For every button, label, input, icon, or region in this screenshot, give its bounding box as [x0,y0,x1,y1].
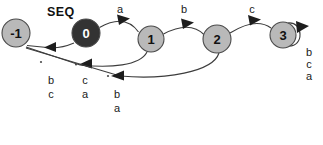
arrowhead-0-neg1 [44,42,56,52]
edge-dot-2-neg1 [107,75,109,77]
edge-label-0-1: a [114,3,126,15]
node-1-label: 1 [147,32,154,47]
back-edge-label-1-neg1-1: a [79,88,91,100]
graph-canvas: -1 0 1 2 3 [0,0,323,145]
edge-dot-1-neg1 [75,63,77,65]
back-edge-label-0-neg1-1: c [45,88,57,100]
self-loop-label-3-0: b [303,46,315,58]
back-edge-label-1-neg1-0: c [79,74,91,86]
node-1[interactable]: 1 [138,26,164,52]
back-edge-1-to-neg1 [26,47,147,69]
forward-edge-0-to-1 [100,15,139,33]
state-machine-diagram: -1 0 1 2 3 SEQ a b c b c a b c c a b a [0,0,323,145]
node-neg1[interactable]: -1 [2,19,30,47]
edge-label-2-3: c [246,3,258,15]
back-edge-label-2-neg1-1: a [111,102,123,114]
node-3-label: 3 [279,28,286,43]
edge-label-1-2: b [178,3,190,15]
forward-edge-1-to-2 [164,19,205,36]
back-edge-label-2-neg1-0: b [111,88,123,100]
node-0[interactable]: 0 [72,19,100,47]
self-loop-label-3-2: a [303,70,315,82]
forward-edge-2-to-3 [230,15,271,33]
node-3[interactable]: 3 [270,22,296,48]
node-0-label: 0 [82,26,89,41]
arrowhead-2-neg1 [111,71,124,81]
node-2-label: 2 [213,32,220,47]
self-loop-label-3-1: c [303,58,315,70]
edge-dot-0-neg1 [40,61,42,63]
back-edge-label-0-neg1-0: b [45,74,57,86]
node-neg1-label: -1 [10,26,22,41]
arrowhead-3-3 [296,21,309,33]
diagram-title: SEQ [47,5,75,19]
node-2[interactable]: 2 [203,25,231,53]
